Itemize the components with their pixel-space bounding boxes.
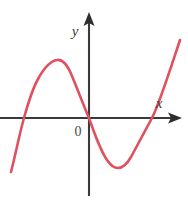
cubic-curve xyxy=(11,40,180,172)
x-axis-label: x xyxy=(155,95,163,111)
graph-canvas: y x 0 xyxy=(0,0,188,204)
cubic-function-graph: y x 0 xyxy=(0,0,188,204)
y-axis-label: y xyxy=(70,23,79,39)
origin-label: 0 xyxy=(75,124,82,139)
